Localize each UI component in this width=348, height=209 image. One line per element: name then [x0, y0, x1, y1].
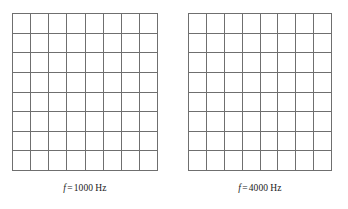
grid-4000hz-cell	[225, 112, 243, 132]
grid-4000hz-cell	[261, 53, 279, 73]
grid-4000hz-cell	[207, 14, 225, 34]
grid-1000hz-cell	[140, 34, 158, 54]
grid-4000hz-cell	[225, 73, 243, 93]
grid-4000hz-cell	[261, 34, 279, 54]
grid-4000hz-cell	[314, 73, 332, 93]
grid-1000hz-cell	[140, 14, 158, 34]
grid-4000hz-cell	[296, 132, 314, 152]
grid-4000hz-cell	[278, 132, 296, 152]
grid-4000hz-cell	[296, 14, 314, 34]
grid-1000hz-cell	[122, 53, 140, 73]
grid-4000hz-cell	[207, 132, 225, 152]
grid-4000hz-cell	[278, 151, 296, 171]
grid-4000hz-cell	[189, 73, 207, 93]
caption-4000hz: f=4000Hz	[188, 182, 332, 195]
grid-1000hz-cell	[67, 151, 85, 171]
frequency-unit-left: Hz	[93, 183, 106, 193]
grid-4000hz-cell	[314, 132, 332, 152]
grid-4000hz-cell	[189, 34, 207, 54]
grid-1000hz-cell	[104, 93, 122, 113]
grid-1000hz-cell	[31, 14, 49, 34]
grid-4000hz-cell	[207, 34, 225, 54]
grid-1000hz-cell	[86, 73, 104, 93]
grid-4000hz-cell	[207, 112, 225, 132]
grid-1000hz-cell	[140, 112, 158, 132]
grid-1000hz-cell	[49, 132, 67, 152]
grid-4000hz-cell	[261, 132, 279, 152]
grid-1000hz-cell	[122, 151, 140, 171]
grid-1000hz-cell	[140, 132, 158, 152]
grid-4000hz-cell	[189, 53, 207, 73]
grid-1000hz-cell	[86, 93, 104, 113]
grid-1000hz-cell	[31, 93, 49, 113]
panel-4000hz	[188, 13, 332, 171]
equals-sign-left: =	[66, 183, 74, 193]
grid-1000hz-cell	[67, 14, 85, 34]
grid-1000hz-cell	[122, 132, 140, 152]
grid-1000hz-cell	[104, 53, 122, 73]
grid-4000hz-cell	[278, 34, 296, 54]
grid-4000hz-cell	[296, 34, 314, 54]
grid-4000hz-cell	[314, 93, 332, 113]
grid-1000hz-cell	[140, 93, 158, 113]
figure-container: f=1000Hz f=4000Hz	[0, 0, 348, 209]
grid-4000hz-cell	[243, 73, 261, 93]
grid-1000hz-cell	[67, 34, 85, 54]
grid-1000hz-cell	[13, 53, 31, 73]
grid-4000hz-cell	[207, 151, 225, 171]
grid-1000hz-cell	[31, 53, 49, 73]
grid-1000hz-cell	[31, 112, 49, 132]
grid-4000hz-cell	[225, 53, 243, 73]
equals-sign-right: =	[241, 183, 249, 193]
grid-1000hz-cell	[104, 14, 122, 34]
grid-1000hz-cell	[86, 132, 104, 152]
grid-1000hz-cell	[67, 53, 85, 73]
grid-1000hz-cell	[86, 151, 104, 171]
grid-1000hz-cell	[67, 73, 85, 93]
grid-4000hz-cell	[314, 151, 332, 171]
grid-1000hz-cell	[140, 73, 158, 93]
grid-1000hz-cell	[49, 53, 67, 73]
grid-4000hz-cell	[189, 132, 207, 152]
grid-4000hz-cell	[243, 93, 261, 113]
grid-1000hz-cell	[13, 93, 31, 113]
grid-4000hz-cell	[278, 112, 296, 132]
grid-4000hz-cell	[243, 53, 261, 73]
plot-grid-1000hz[interactable]	[12, 13, 158, 171]
frequency-value-right: 4000	[249, 183, 269, 193]
grid-1000hz-cell	[122, 14, 140, 34]
grid-1000hz-cell	[140, 151, 158, 171]
grid-1000hz-cell	[122, 93, 140, 113]
grid-4000hz-cell	[225, 93, 243, 113]
grid-1000hz-cell	[67, 112, 85, 132]
plot-grid-4000hz[interactable]	[188, 13, 332, 171]
grid-1000hz-cell	[104, 34, 122, 54]
grid-1000hz-cell	[13, 73, 31, 93]
grid-4000hz-cell	[225, 34, 243, 54]
grid-4000hz-cell	[225, 151, 243, 171]
grid-4000hz-cell	[296, 151, 314, 171]
grid-1000hz-cell	[49, 34, 67, 54]
grid-4000hz-cell	[189, 14, 207, 34]
grid-1000hz-cell	[49, 73, 67, 93]
panel-1000hz	[12, 13, 158, 171]
grid-1000hz-cell	[104, 73, 122, 93]
grid-1000hz-cell	[31, 34, 49, 54]
grid-4000hz-cell	[189, 151, 207, 171]
grid-1000hz-cell	[49, 151, 67, 171]
grid-4000hz-cell	[225, 132, 243, 152]
frequency-value-left: 1000	[74, 183, 94, 193]
grid-1000hz-cell	[13, 34, 31, 54]
grid-4000hz-cell	[243, 34, 261, 54]
grid-1000hz-cell	[122, 112, 140, 132]
grid-4000hz-cell	[278, 14, 296, 34]
grid-4000hz-cell	[243, 132, 261, 152]
grid-1000hz-cell	[13, 112, 31, 132]
grid-4000hz-cell	[261, 93, 279, 113]
grid-1000hz-cell	[49, 93, 67, 113]
grid-4000hz-cell	[278, 93, 296, 113]
grid-4000hz-cell	[296, 93, 314, 113]
grid-4000hz-cell	[243, 112, 261, 132]
grid-1000hz-cell	[86, 53, 104, 73]
grid-4000hz-cell	[225, 14, 243, 34]
